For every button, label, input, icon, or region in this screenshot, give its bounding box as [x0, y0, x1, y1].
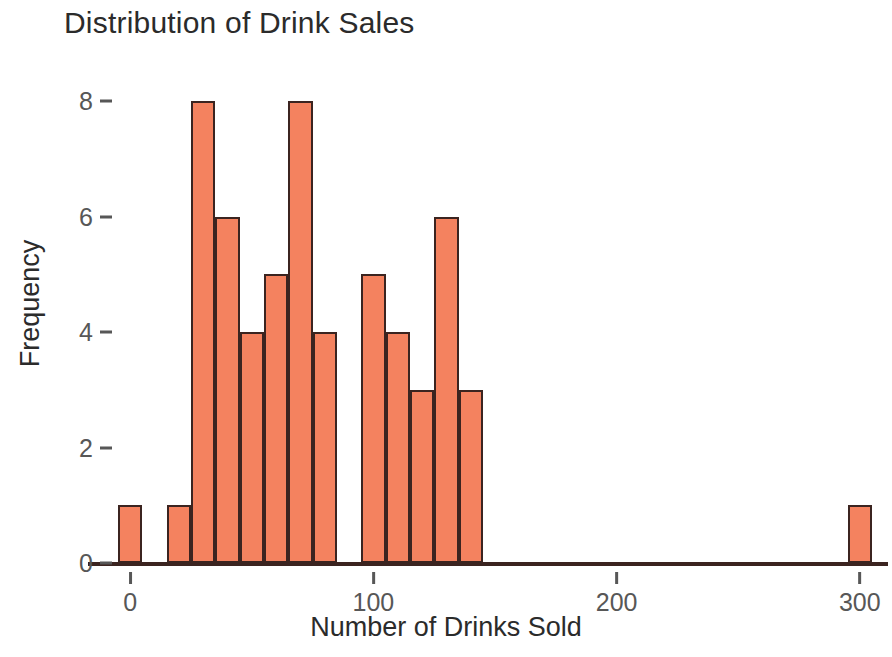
- x-axis-tick: 0: [123, 572, 137, 617]
- x-axis-tick-mark: [615, 572, 618, 584]
- x-axis-ticks: 0100200300: [0, 0, 892, 657]
- x-axis-tick-mark: [858, 572, 861, 584]
- x-axis-tick: 200: [596, 572, 638, 617]
- x-axis-tick-mark: [129, 572, 132, 584]
- x-axis-tick-mark: [372, 572, 375, 584]
- histogram-figure: Distribution of Drink Sales 02468 010020…: [0, 0, 892, 657]
- x-axis-tick: 100: [353, 572, 395, 617]
- x-axis-tick: 300: [839, 572, 881, 617]
- y-axis-label: Frequency: [15, 124, 46, 484]
- x-axis-label: Number of Drinks Sold: [0, 612, 892, 643]
